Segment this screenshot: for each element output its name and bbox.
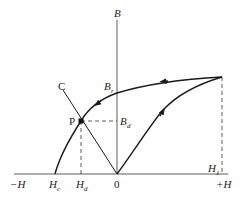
h1-label: H 1 — [207, 162, 220, 177]
origin-label: 0 — [114, 178, 120, 190]
svg-text:B: B — [104, 80, 111, 92]
bh-curve-diagram: B C P B r B d H 1 −H H c H d 0 +H — [0, 0, 241, 205]
pos-h-label: +H — [216, 178, 232, 190]
neg-h-label: −H — [10, 178, 26, 190]
demagnetization-curve — [55, 77, 222, 174]
point-p-marker — [79, 119, 84, 124]
br-label: B r — [104, 80, 114, 95]
hc-label: H c — [48, 178, 61, 193]
hd-label: H d — [75, 178, 88, 193]
diagram-canvas: B C P B r B d H 1 −H H c H d 0 +H — [0, 0, 241, 205]
svg-text:d: d — [84, 185, 88, 193]
bd-label: B d — [120, 115, 131, 130]
arrow-left-icon — [163, 81, 168, 82]
svg-text:B: B — [120, 115, 127, 127]
b-axis-label: B — [114, 7, 121, 19]
point-p-label: P — [69, 115, 75, 127]
point-c-label: C — [58, 80, 65, 92]
initial-magnetization-curve — [117, 77, 222, 174]
svg-text:c: c — [57, 185, 61, 193]
svg-text:d: d — [127, 122, 131, 130]
svg-text:r: r — [111, 87, 114, 95]
load-line-c — [63, 90, 117, 174]
svg-text:1: 1 — [216, 169, 220, 177]
